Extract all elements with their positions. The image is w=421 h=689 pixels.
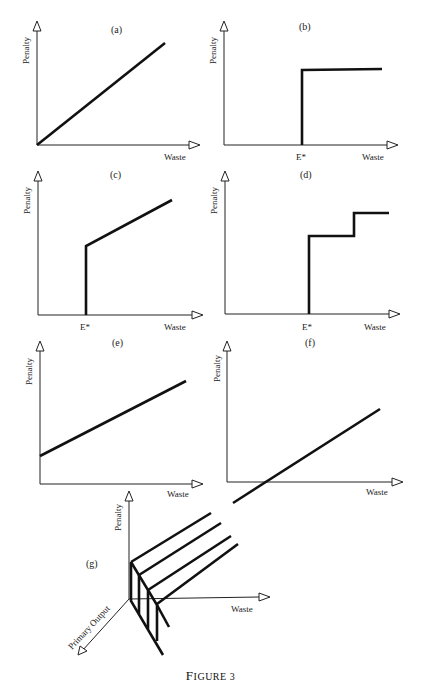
x-tick-estar: E* xyxy=(302,322,312,332)
panel-label: (c) xyxy=(110,169,121,181)
x-axis-arrow-icon xyxy=(192,311,203,319)
x-axis-arrow-icon xyxy=(389,310,400,318)
y-axis-arrow-icon xyxy=(223,341,231,351)
x-axis-arrow-icon xyxy=(192,480,203,488)
y-axis-label: Penalty xyxy=(22,187,32,214)
y-axis-label: Penalty xyxy=(24,358,34,385)
x-axis-label: Waste xyxy=(366,487,388,497)
figure-canvas: (a) Waste Penalty (b) E* Waste Penalty (… xyxy=(0,0,421,689)
panel-label: (e) xyxy=(112,337,123,349)
panel-b: (b) E* Waste Penalty xyxy=(208,21,398,162)
x-axis-arrow-icon xyxy=(387,141,398,149)
y-axis-label: Penalty xyxy=(113,504,123,531)
penalty-line-4 xyxy=(157,544,238,604)
x-axis-arrow-icon xyxy=(392,478,403,486)
step-tail xyxy=(157,605,169,627)
penalty-curve xyxy=(309,213,389,314)
x-axis-label: Waste xyxy=(167,489,189,499)
caption-rest: IGURE 3 xyxy=(194,671,236,682)
y-axis-arrow-icon xyxy=(36,341,44,351)
panel-c: (c) E* Waste Penalty xyxy=(22,169,203,332)
panel-d: (d) E* Waste Penalty xyxy=(209,169,400,332)
x-axis-arrow-icon xyxy=(259,593,270,601)
y-axis-arrow-icon xyxy=(125,491,133,501)
x-tick-estar: E* xyxy=(80,322,90,332)
y-axis-label: Penalty xyxy=(212,355,222,382)
y-axis-arrow-icon xyxy=(34,171,42,181)
y-axis-label: Penalty xyxy=(21,37,31,64)
y-axis-arrow-icon xyxy=(221,171,229,181)
penalty-curve xyxy=(86,200,172,315)
y-axis-label: Penalty xyxy=(208,37,218,64)
x-axis-label: Waste xyxy=(364,322,386,332)
x-axis-label: Waste xyxy=(362,152,384,162)
panel-g: (g) Waste Penalty Primary Output xyxy=(66,491,270,655)
panel-f: (f) Waste Penalty xyxy=(212,337,403,503)
panel-label: (f) xyxy=(305,337,315,349)
z-axis-label: Primary Output xyxy=(66,603,112,651)
x-axis-label: Waste xyxy=(164,322,186,332)
panel-label: (a) xyxy=(111,24,122,36)
penalty-curve xyxy=(302,69,382,145)
caption-initial: F xyxy=(186,668,194,683)
x-tick-estar: E* xyxy=(296,152,306,162)
penalty-curve xyxy=(40,381,186,456)
x-axis-arrow-icon xyxy=(189,141,200,149)
figure-caption: FIGURE 3 xyxy=(0,668,421,684)
panel-label: (b) xyxy=(299,21,311,33)
panel-label: (g) xyxy=(86,558,98,570)
x-axis-label: Waste xyxy=(231,604,253,614)
y-axis-label: Penalty xyxy=(209,187,219,214)
y-axis-arrow-icon xyxy=(33,21,41,31)
panel-a: (a) Waste Penalty xyxy=(21,21,200,162)
x-axis-label: Waste xyxy=(164,152,186,162)
panel-label: (d) xyxy=(300,169,312,181)
penalty-curve xyxy=(233,409,380,503)
penalty-curve xyxy=(37,43,165,145)
y-axis-arrow-icon xyxy=(220,21,228,31)
panel-e: (e) Waste Penalty xyxy=(24,337,203,499)
